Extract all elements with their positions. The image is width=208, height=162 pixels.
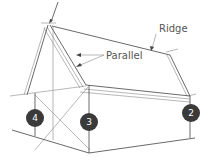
house-roof-diagram: Ridge Parallel 4 3 2: [0, 0, 208, 162]
back-rake-inner-line: [24, 27, 45, 95]
apex-pointer-line: [51, 2, 58, 22]
parallel-label: Parallel: [106, 50, 142, 61]
ridge-label: Ridge: [159, 23, 188, 34]
parallel-arrow-line-2: [78, 55, 104, 66]
marker-4: 4: [26, 109, 44, 127]
right-rake-inner-line: [167, 55, 187, 96]
ground-line-right: [89, 138, 195, 153]
right-rake-tick: [166, 49, 178, 52]
marker-3: 3: [80, 113, 98, 131]
marker-4-label: 4: [32, 113, 38, 123]
left-eave-line: [10, 86, 86, 96]
marker-2: 2: [182, 104, 200, 122]
right-rake-line: [170, 55, 190, 96]
ground-line-left: [12, 130, 89, 153]
back-rake-line: [27, 25, 48, 95]
front-rake-mid-line: [47, 27, 83, 87]
marker-3-label: 3: [86, 117, 92, 127]
marker-2-label: 2: [188, 108, 194, 118]
front-eave-line-3: [80, 92, 190, 102]
front-rake-inner-line: [44, 28, 80, 88]
parallel-arrowhead-2-icon: [76, 63, 82, 67]
parallel-arrowhead-1-icon: [76, 53, 81, 57]
